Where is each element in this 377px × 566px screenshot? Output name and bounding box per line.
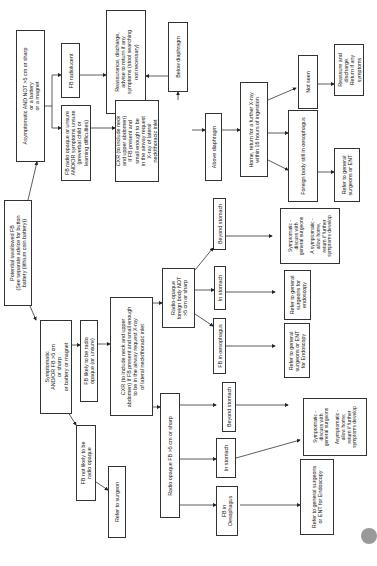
- symptomatic-discuss-bot-node: Symptomatic - discuss with general surge…: [303, 398, 367, 456]
- fb-not-likely-opaque-node: FB not likely to be radio opaque: [76, 425, 96, 501]
- cxr-mid-node: CXR (to include neck and upper abdomen) …: [110, 297, 153, 416]
- reassurance-node: Reassurance, discharge, advise to return…: [106, 10, 146, 114]
- fb-in-oesophagus-bot-node: FB in Oesophagus: [216, 486, 238, 536]
- fb-opaque-unsure-node: FB radio opaque or unsure AND/OR symptom…: [61, 105, 91, 181]
- refer-gs-endo-mid-node: Refer to general surgeons for endoscopy: [284, 270, 311, 320]
- in-stomach-bot-node: In stomach: [216, 438, 236, 478]
- page-corner-decoration: [361, 528, 377, 544]
- fb-still-oesophagus-node: Foreign body still in oesophagus: [288, 110, 318, 202]
- radio-opaque-5-node: Radio opaque FB >5 cm or sharp: [160, 393, 180, 518]
- refer-surgeon-node: Refer to surgeon: [108, 466, 126, 538]
- beyond-stomach-mid-node: Beyond stomach: [213, 198, 226, 250]
- beyond-stomach-bot-node: Beyond stomach: [222, 382, 236, 432]
- not-seen-node: Not seen: [298, 55, 318, 109]
- in-stomach-mid-node: In stomach: [214, 266, 226, 310]
- fb-likely-opaque-node: FB likely to be radio opaque (or unsure): [80, 320, 98, 402]
- asymptomatic-node: Asymptomatic AND NOT >5 cm or sharp or a…: [16, 30, 45, 162]
- fb-radiolucent-node: FB radiolucent: [61, 43, 80, 98]
- home-return-node: Home, return for a further X-ray within …: [240, 82, 268, 177]
- reassure-discharge-node: Reassure and discharge. Return if any sy…: [334, 44, 364, 96]
- refer-gs-ent-endo-bot-node: Refer to general surgeons or ENT for End…: [300, 459, 334, 535]
- refer-gs-ent-endo-mid-node: Refer to general surgeons or ENT for End…: [284, 323, 310, 378]
- symptomatic-discuss-mid-node: Symptomatic - discuss with general surge…: [280, 208, 340, 264]
- below-diaphragm-node: Below diaphragm: [168, 22, 188, 92]
- start-node: Potential swallowed FB (See separate adv…: [4, 200, 32, 306]
- fb-in-oesophagus-mid-node: FB in oesophagus: [213, 318, 226, 374]
- cxr-top-node: CXR (to include neck and upper abdomen) …: [115, 100, 159, 182]
- symptomatic-node: Symptomatic AND/OR FB >5 cm or sharp or …: [40, 320, 72, 414]
- radio-opaque-not5-node: Radio-opaque foreign body NOT >5 cm or s…: [162, 268, 195, 328]
- above-diaphragm-node: Above diaphragm: [205, 113, 222, 181]
- refer-gs-ent-top-node: Refer to general surgeons or ENT: [334, 148, 360, 202]
